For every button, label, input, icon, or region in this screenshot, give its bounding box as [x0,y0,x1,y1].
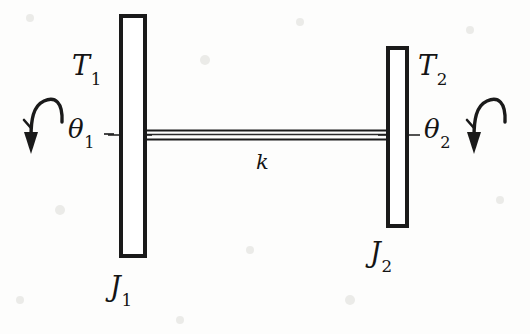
torsional-shaft [130,131,400,140]
label-inertia-1: J1 [110,273,131,305]
label-angle-2: θ2 [424,116,450,147]
label-angle-1: θ1 [68,116,94,147]
inertia-disc-1 [121,16,145,256]
label-torque-1: T1 [72,52,101,84]
label-torque-2: T2 [418,52,447,84]
rotation-arrow-1 [24,99,62,154]
inertia-disc-2 [388,48,407,226]
figure-canvas: T1 T2 θ1 θ2 k J1 J2 [0,0,530,334]
label-inertia-2: J2 [370,239,391,271]
rotation-arrow-2 [467,99,505,154]
label-stiffness: k [256,152,269,173]
